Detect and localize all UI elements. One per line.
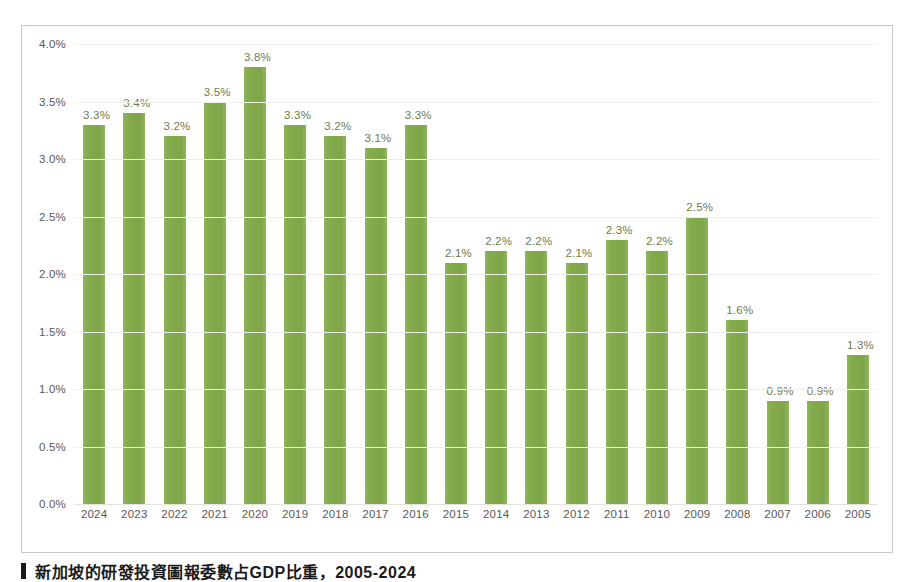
- x-axis-tick: 2013: [516, 508, 556, 520]
- bar-value-label: 3.2%: [164, 120, 191, 132]
- bar-value-label: 2.3%: [606, 224, 633, 236]
- chart-frame: 0.0%0.5%1.0%1.5%2.0%2.5%3.0%3.5%4.0% 3.3…: [21, 25, 893, 553]
- x-axis-tick: 2016: [396, 508, 436, 520]
- x-axis-tick: 2011: [597, 508, 637, 520]
- x-axis-tick: 2015: [436, 508, 476, 520]
- gridline: [74, 447, 878, 448]
- x-axis-tick: 2008: [717, 508, 757, 520]
- bar-value-label: 3.8%: [244, 51, 271, 63]
- bar[interactable]: 1.3%: [847, 355, 869, 505]
- bar[interactable]: 2.2%: [485, 251, 507, 504]
- x-axis-tick: 2005: [838, 508, 878, 520]
- caption: 新加坡的研發投資圖報委數占GDP比重，2005-2024: [21, 563, 901, 582]
- bar[interactable]: 2.1%: [566, 263, 588, 505]
- bar-value-label: 2.2%: [646, 235, 673, 247]
- bar-value-label: 2.1%: [445, 247, 472, 259]
- gridline: [74, 102, 878, 103]
- gridline: [74, 389, 878, 390]
- bar-value-label: 3.1%: [365, 132, 392, 144]
- x-axis-tick: 2007: [757, 508, 797, 520]
- bar[interactable]: 0.9%: [807, 401, 829, 505]
- gridline: [74, 217, 878, 218]
- y-axis-tick: 1.5%: [39, 326, 66, 338]
- y-axis-tick: 3.5%: [39, 96, 66, 108]
- square-bullet-icon: [21, 563, 26, 579]
- y-axis-tick: 2.5%: [39, 211, 66, 223]
- x-axis: 2024202320222021202020192018201720162015…: [74, 508, 878, 538]
- bar[interactable]: 3.2%: [164, 136, 186, 504]
- x-axis-tick: 2024: [74, 508, 114, 520]
- bar[interactable]: 2.2%: [525, 251, 547, 504]
- bar-value-label: 3.5%: [204, 86, 231, 98]
- bar[interactable]: 2.1%: [445, 263, 467, 505]
- x-axis-tick: 2009: [677, 508, 717, 520]
- bar-value-label: 1.3%: [847, 339, 874, 351]
- bar[interactable]: 2.5%: [686, 217, 708, 505]
- y-axis-tick: 1.0%: [39, 383, 66, 395]
- y-axis: 0.0%0.5%1.0%1.5%2.0%2.5%3.0%3.5%4.0%: [22, 44, 74, 504]
- y-axis-tick: 3.0%: [39, 153, 66, 165]
- x-axis-tick: 2019: [275, 508, 315, 520]
- bar-value-label: 2.5%: [686, 201, 713, 213]
- bar[interactable]: 2.2%: [646, 251, 668, 504]
- bar-value-label: 3.4%: [123, 97, 150, 109]
- x-axis-tick: 2014: [476, 508, 516, 520]
- bar-value-label: 0.9%: [767, 385, 794, 397]
- bar-value-label: 3.3%: [284, 109, 311, 121]
- x-axis-tick: 2017: [355, 508, 395, 520]
- y-axis-tick: 0.0%: [39, 498, 66, 510]
- bar[interactable]: 0.9%: [767, 401, 789, 505]
- gridline: [74, 274, 878, 275]
- bar[interactable]: 3.8%: [244, 67, 266, 504]
- x-axis-tick: 2023: [114, 508, 154, 520]
- x-axis-tick: 2020: [235, 508, 275, 520]
- bar-value-label: 2.2%: [485, 235, 512, 247]
- bar[interactable]: 3.2%: [324, 136, 346, 504]
- bar[interactable]: 2.3%: [606, 240, 628, 505]
- gridline: [74, 332, 878, 333]
- plot-area: 3.3%3.4%3.2%3.5%3.8%3.3%3.2%3.1%3.3%2.1%…: [74, 44, 878, 504]
- gridline: [74, 504, 878, 505]
- bar[interactable]: 1.6%: [726, 320, 748, 504]
- y-axis-tick: 4.0%: [39, 38, 66, 50]
- bar[interactable]: 3.4%: [123, 113, 145, 504]
- gridline: [74, 159, 878, 160]
- bar-value-label: 1.6%: [726, 304, 753, 316]
- bar-value-label: 2.2%: [525, 235, 552, 247]
- x-axis-tick: 2006: [798, 508, 838, 520]
- bar[interactable]: 3.5%: [204, 102, 226, 505]
- bar[interactable]: 3.1%: [365, 148, 387, 505]
- x-axis-tick: 2022: [154, 508, 194, 520]
- x-axis-tick: 2012: [556, 508, 596, 520]
- bar-value-label: 3.3%: [83, 109, 110, 121]
- bar-value-label: 3.3%: [405, 109, 432, 121]
- chart-page: 0.0%0.5%1.0%1.5%2.0%2.5%3.0%3.5%4.0% 3.3…: [0, 0, 918, 582]
- caption-text: 新加坡的研發投資圖報委數占GDP比重，2005-2024: [35, 563, 416, 582]
- bar-value-label: 0.9%: [807, 385, 834, 397]
- x-axis-tick: 2021: [195, 508, 235, 520]
- x-axis-tick: 2010: [637, 508, 677, 520]
- gridline: [74, 44, 878, 45]
- y-axis-tick: 2.0%: [39, 268, 66, 280]
- bar-value-label: 2.1%: [566, 247, 593, 259]
- y-axis-tick: 0.5%: [39, 441, 66, 453]
- x-axis-tick: 2018: [315, 508, 355, 520]
- bar-value-label: 3.2%: [324, 120, 351, 132]
